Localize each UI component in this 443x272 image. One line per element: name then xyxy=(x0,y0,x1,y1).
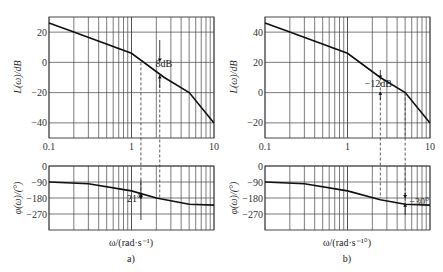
x-tick-label: 10 xyxy=(425,141,435,152)
x-tick-label: 1 xyxy=(129,141,134,152)
y-tick-label: 20 xyxy=(37,27,47,38)
y-tick-label: 0 xyxy=(258,87,263,98)
magnitude-ylabel: L(ω)/dB xyxy=(12,60,24,94)
y-tick-label: −270 xyxy=(26,209,47,220)
panel-b: 40200−200−90−180−2700.1110L(ω)/dBφ(ω)/(°… xyxy=(228,17,435,265)
y-tick-label: 20 xyxy=(253,57,263,68)
y-tick-label: −270 xyxy=(242,209,263,220)
y-tick-label: −180 xyxy=(242,193,263,204)
y-tick-label: 0 xyxy=(42,161,47,172)
y-tick-label: −20 xyxy=(31,87,47,98)
y-tick-label: −90 xyxy=(31,177,47,188)
x-axis-label: ω/(rad·s⁻¹°) xyxy=(323,237,371,249)
gain-margin-label: −12dB xyxy=(365,78,393,89)
y-tick-label: 40 xyxy=(253,27,263,38)
bode-plots-figure: 200−20−400−90−180−2700.1110L(ω)/dBφ(ω)/(… xyxy=(0,0,443,272)
y-tick-label: −180 xyxy=(26,193,47,204)
panel-caption: a) xyxy=(127,253,135,265)
panel-a: 200−20−400−90−180−2700.1110L(ω)/dBφ(ω)/(… xyxy=(12,17,219,265)
y-tick-label: −40 xyxy=(31,117,47,128)
magnitude-ylabel: L(ω)/dB xyxy=(228,60,240,94)
x-tick-label: 10 xyxy=(209,141,219,152)
x-tick-label: 0.1 xyxy=(259,141,272,152)
grid xyxy=(49,17,214,138)
phase-ylabel: φ(ω)/(°) xyxy=(228,181,240,214)
y-tick-label: 0 xyxy=(258,161,263,172)
x-tick-label: 0.1 xyxy=(43,141,56,152)
x-axis-label: ω/(rad·s⁻¹) xyxy=(109,237,153,249)
y-tick-label: −20 xyxy=(247,117,263,128)
y-tick-label: 0 xyxy=(42,57,47,68)
gain-margin-label: 8dB xyxy=(155,58,172,69)
x-tick-label: 1 xyxy=(345,141,350,152)
phase-margin-label: −30° xyxy=(409,196,429,207)
phase-margin-label: 21° xyxy=(127,193,141,204)
phase-ylabel: φ(ω)/(°) xyxy=(12,181,24,214)
y-tick-label: −90 xyxy=(247,177,263,188)
panel-caption: b) xyxy=(343,253,351,265)
